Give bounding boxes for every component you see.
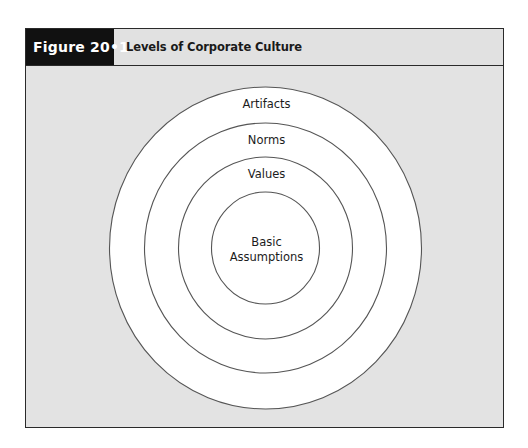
figure-number-label: Figure 20•1 <box>26 29 114 65</box>
figure-header: Figure 20•1 Levels of Corporate Culture <box>26 29 503 66</box>
figure-frame: Figure 20•1 Levels of Corporate Culture <box>25 28 504 428</box>
figure-title: Levels of Corporate Culture <box>114 29 302 65</box>
